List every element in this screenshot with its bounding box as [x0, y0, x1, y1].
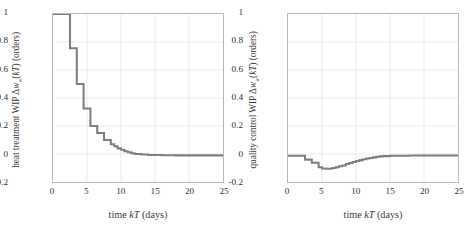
x-axis-label-left: time kT (days) — [52, 209, 224, 220]
y-tick-left-1: 0.8 — [0, 41, 8, 50]
x-tick-left-3: 15 — [140, 186, 170, 196]
plot-area-left — [52, 13, 224, 183]
x-tick-right-0: 0 — [272, 186, 302, 196]
plot-area-right — [287, 13, 459, 183]
x-tick-right-2: 10 — [341, 186, 371, 196]
panel-heat-treatment: heat treatment WIP Δww(kT) (orders) — [0, 0, 235, 235]
panel-quality-control: quality control WIP Δww(kT) (orders) — [235, 0, 470, 235]
y-axis-label-right: quality control WIP Δww(kT) (orders) — [248, 12, 260, 188]
y-tick-left-4: 0.2 — [0, 126, 8, 135]
y-tick-left-3: 0.4 — [0, 98, 8, 107]
y-tick-left-2: 0.6 — [0, 70, 8, 79]
y-axis-label-left: heat treatment WIP Δww(kT) (orders) — [11, 12, 23, 188]
y-tick-left-0: 1 — [0, 13, 8, 22]
x-tick-right-1: 5 — [306, 186, 336, 196]
x-tick-left-1: 5 — [71, 186, 101, 196]
x-axis-label-right: time kT (days) — [287, 209, 459, 220]
data-line-heat-treatment — [53, 14, 223, 155]
y-tick-left-5: 0 — [0, 155, 8, 164]
data-line-quality-control — [288, 156, 458, 169]
x-tick-right-4: 20 — [410, 186, 440, 196]
gridlines-left — [53, 14, 223, 182]
plot-svg-right — [288, 14, 458, 182]
x-tick-left-2: 10 — [106, 186, 136, 196]
x-tick-left-0: 0 — [37, 186, 67, 196]
x-tick-right-5: 25 — [444, 186, 470, 196]
y-tick-left-6: -0.2 — [0, 183, 8, 192]
plot-svg-left — [53, 14, 223, 182]
x-tick-left-4: 20 — [175, 186, 205, 196]
figure-two-panel: heat treatment WIP Δww(kT) (orders) — [0, 0, 470, 235]
x-tick-right-3: 15 — [375, 186, 405, 196]
